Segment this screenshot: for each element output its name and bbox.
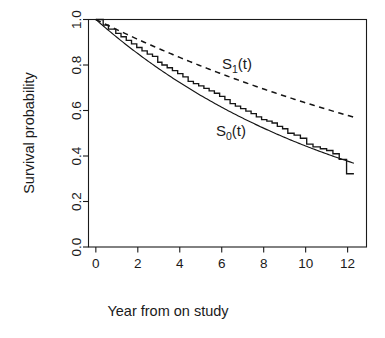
x-axis-title: Year from on study bbox=[107, 303, 229, 319]
x-tick-label: 2 bbox=[134, 256, 142, 271]
y-tick-label: 0.8 bbox=[69, 56, 84, 75]
y-tick-label: 0.2 bbox=[69, 192, 84, 211]
series-label-s0: S0(t) bbox=[216, 122, 246, 142]
x-axis-ticks: 024681012 bbox=[92, 247, 355, 271]
y-tick-label: 0.0 bbox=[69, 238, 84, 257]
y-axis-title: Survival probability bbox=[21, 71, 37, 193]
y-tick-label: 0.6 bbox=[69, 101, 84, 120]
x-tick-label: 6 bbox=[218, 256, 226, 271]
x-tick-label: 4 bbox=[176, 256, 184, 271]
x-tick-label: 10 bbox=[298, 256, 313, 271]
x-tick-label: 0 bbox=[92, 256, 100, 271]
survival-plot-figure: 0.00.20.40.60.81.0 024681012 S1(t) S0(t)… bbox=[0, 0, 385, 338]
series-s0-kaplan-meier-step bbox=[96, 20, 354, 174]
x-tick-label: 8 bbox=[260, 256, 268, 271]
series-s0-fitted-curve bbox=[96, 20, 354, 164]
chart-canvas: 0.00.20.40.60.81.0 024681012 S1(t) S0(t)… bbox=[0, 0, 385, 338]
y-axis-ticks: 0.00.20.40.60.81.0 bbox=[69, 10, 88, 256]
series-label-s1: S1(t) bbox=[222, 55, 252, 75]
y-tick-label: 1.0 bbox=[69, 10, 84, 29]
x-tick-label: 12 bbox=[340, 256, 355, 271]
y-tick-label: 0.4 bbox=[69, 146, 84, 165]
